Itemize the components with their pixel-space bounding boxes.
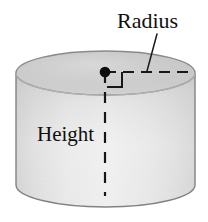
cylinder-diagram-canvas: Radius Height <box>0 0 208 222</box>
radius-label: Radius <box>117 8 178 33</box>
center-point-dot <box>100 67 111 78</box>
height-label: Height <box>37 122 94 146</box>
cylinder-diagram-svg: Radius Height <box>0 0 208 222</box>
